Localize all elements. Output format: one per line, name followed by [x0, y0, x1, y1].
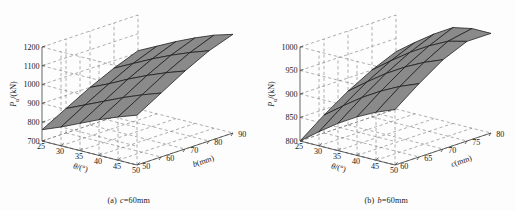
figure-root: 7008009001000110012002530354045505060708…	[0, 0, 515, 211]
b-xtick: 35	[332, 152, 340, 161]
a-xtick: 25	[37, 142, 45, 151]
a-yaxis-title: b(mm)	[192, 153, 216, 169]
a-ztick: 1100	[24, 62, 40, 71]
a-ztick: 800	[27, 118, 39, 127]
a-ytick: 60	[166, 154, 174, 163]
a-xtick: 35	[75, 152, 83, 161]
caption-a-text: =60mm	[124, 196, 150, 205]
caption-b-text: =60mm	[382, 196, 408, 205]
b-ytick: 75	[472, 138, 480, 147]
b-ytick: 65	[424, 154, 432, 163]
caption-b: (b)b=60mm	[258, 196, 515, 205]
b-ztick: 1000	[281, 43, 297, 52]
a-ytick: 70	[190, 146, 198, 155]
a-xtick: 30	[56, 147, 64, 156]
b-ytick: 70	[448, 146, 456, 155]
b-zaxis-title: Pu/(kN)	[267, 81, 278, 108]
a-ytick: 50	[142, 162, 150, 171]
caption-a-label: (a)	[107, 196, 117, 205]
a-xtick: 40	[94, 157, 102, 166]
a-ytick: 80	[214, 138, 222, 147]
a-ytick: 90	[238, 130, 246, 139]
a-xtick: 50	[132, 166, 140, 175]
b-ztick: 900	[285, 90, 297, 99]
a-ztick: 1200	[23, 43, 39, 52]
b-xtick: 25	[294, 142, 302, 151]
caption-a: (a)c=60mm	[0, 196, 258, 205]
surface-plot-a: 7008009001000110012002530354045505060708…	[0, 0, 258, 190]
b-yaxis-title: c(mm)	[449, 153, 473, 168]
surface-plot-b: 80085090095010002530354045506065707580 P…	[258, 0, 515, 190]
a-ztick: 1000	[23, 80, 39, 89]
b-ztick: 850	[285, 113, 297, 122]
b-xtick: 30	[313, 147, 321, 156]
a-xtick: 45	[113, 162, 121, 171]
panel-b: 80085090095010002530354045506065707580 P…	[258, 0, 515, 211]
b-ztick: 950	[285, 66, 297, 75]
surface-mesh-a	[42, 34, 233, 129]
b-xtick: 45	[370, 162, 378, 171]
b-xtick: 40	[351, 157, 359, 166]
b-ytick: 60	[400, 162, 408, 171]
b-xaxis-title: θ/(°)	[330, 161, 347, 173]
panel-a: 7008009001000110012002530354045505060708…	[0, 0, 258, 211]
b-xtick: 50	[389, 166, 397, 175]
caption-b-label: (b)	[364, 196, 374, 205]
a-xaxis-title: θ/(°)	[72, 161, 89, 173]
a-zaxis-title: Pu/(kN)	[9, 81, 20, 108]
b-ytick: 80	[496, 130, 504, 139]
a-ztick: 900	[27, 99, 39, 108]
